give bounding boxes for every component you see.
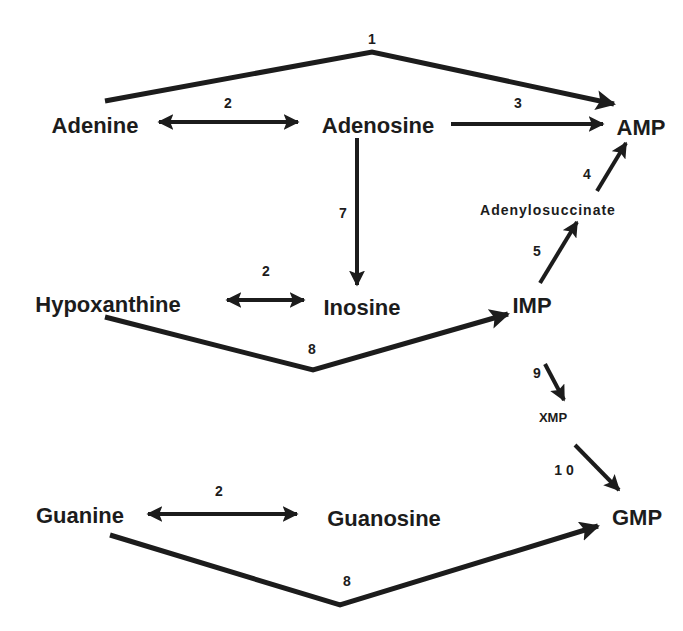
node-guanine: Guanine bbox=[36, 503, 124, 528]
edge-r9-imp-to-xmp bbox=[545, 364, 564, 400]
edge-r5-imp-to-adenylosuccinate bbox=[540, 222, 577, 283]
node-adenylosuccinate: Adenylosuccinate bbox=[480, 202, 616, 218]
reaction-label-1: 1 bbox=[368, 31, 376, 47]
node-amp: AMP bbox=[617, 115, 666, 140]
purine-salvage-pathway-diagram: Adenine Adenosine AMP Adenylosuccinate H… bbox=[0, 0, 683, 631]
reaction-label-7: 7 bbox=[339, 205, 347, 221]
node-gmp: GMP bbox=[612, 505, 662, 530]
node-hypoxanthine: Hypoxanthine bbox=[35, 292, 180, 317]
node-inosine: Inosine bbox=[323, 295, 400, 320]
node-adenine: Adenine bbox=[52, 113, 139, 138]
edge-r8-hypoxanthine-to-imp bbox=[105, 314, 508, 370]
node-xmp: XMP bbox=[539, 410, 568, 425]
reaction-label-10: 1 0 bbox=[554, 462, 574, 478]
reaction-label-9: 9 bbox=[533, 365, 541, 381]
reaction-label-5: 5 bbox=[533, 243, 541, 259]
edge-r1-adenine-to-amp bbox=[105, 52, 614, 104]
node-adenosine: Adenosine bbox=[322, 113, 434, 138]
reaction-label-8-hypoxanthine: 8 bbox=[308, 341, 316, 357]
reaction-label-2-adenine: 2 bbox=[224, 95, 232, 111]
edge-r8-guanine-to-gmp bbox=[110, 526, 598, 605]
node-guanosine: Guanosine bbox=[327, 506, 441, 531]
edge-r10-xmp-to-gmp bbox=[575, 445, 619, 490]
node-imp: IMP bbox=[512, 293, 551, 318]
reaction-label-2-guanine: 2 bbox=[215, 483, 223, 499]
reaction-label-4: 4 bbox=[583, 166, 591, 182]
reaction-label-8-guanine: 8 bbox=[343, 573, 351, 589]
reaction-label-3: 3 bbox=[514, 95, 522, 111]
reaction-label-2-hypoxanthine: 2 bbox=[262, 263, 270, 279]
edge-r4-adenylosuccinate-to-amp bbox=[597, 143, 626, 191]
